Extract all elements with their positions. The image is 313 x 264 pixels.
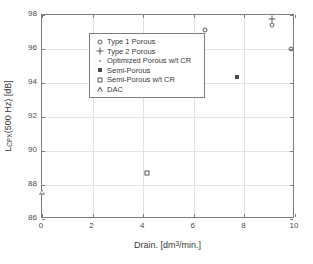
y-tick-label: 90 <box>17 146 37 154</box>
x-tick-label: 0 <box>39 222 43 230</box>
y-tick <box>42 83 45 84</box>
marker-triangle-icon <box>97 87 103 92</box>
x-tick-label: 8 <box>241 222 245 230</box>
gridline-vertical <box>244 15 245 217</box>
data-point-plus <box>269 15 276 22</box>
x-tick-label: 4 <box>140 222 144 230</box>
legend-item-4[interactable]: Semi-Porous w/t CR <box>93 75 200 85</box>
y-tick-right <box>290 49 293 50</box>
x-tick-top <box>244 15 245 18</box>
marker-plus-icon <box>97 48 104 55</box>
data-point-square-open <box>144 171 149 176</box>
legend-item-3[interactable]: Semi-Porous <box>93 66 200 76</box>
marker-square-open-icon <box>98 77 103 82</box>
gridline-horizontal <box>42 185 293 186</box>
legend-item-2[interactable]: Optimized Porous w/t CR <box>93 56 200 66</box>
legend-marker-cell <box>93 47 107 57</box>
data-point-square-filled <box>235 75 239 79</box>
x-tick-label: 10 <box>290 222 299 230</box>
y-tick <box>42 185 45 186</box>
legend-item-label: Type 2 Porous <box>107 47 155 57</box>
x-tick <box>143 214 144 217</box>
plot-area: Type 1 PorousType 2 PorousOptimized Poro… <box>41 14 294 218</box>
legend-marker-cell <box>93 37 107 47</box>
x-tick <box>42 214 43 217</box>
gridline-horizontal <box>42 151 293 152</box>
x-tick-top <box>143 15 144 18</box>
y-tick-label: 98 <box>17 10 37 18</box>
gridline-horizontal <box>42 117 293 118</box>
y-tick-label: 96 <box>17 44 37 52</box>
y-tick-label: 92 <box>17 112 37 120</box>
x-axis-label: Drain. [dm3/min.] <box>41 240 294 250</box>
y-tick-right <box>290 83 293 84</box>
x-tick-top <box>295 15 296 18</box>
legend-marker-cell <box>93 85 107 95</box>
y-axis-label: LCPX(500 Hz) [dB] <box>3 80 13 151</box>
x-tick <box>194 214 195 217</box>
y-tick <box>42 151 45 152</box>
legend-item-label: Type 1 Porous <box>107 37 155 47</box>
legend-item-label: DAC <box>107 85 123 95</box>
x-tick <box>244 214 245 217</box>
legend-marker-cell <box>93 66 107 76</box>
legend-marker-cell <box>93 75 107 85</box>
data-point-circle <box>270 23 275 28</box>
legend-item-label: Optimized Porous w/t CR <box>107 56 191 66</box>
x-tick-top <box>194 15 195 18</box>
legend-marker-cell <box>93 56 107 66</box>
legend-item-label: Semi-Porous <box>107 66 150 76</box>
y-tick-right <box>290 219 293 220</box>
y-tick-label: 94 <box>17 78 37 86</box>
legend-item-5[interactable]: DAC <box>93 85 200 95</box>
x-tick-top <box>93 15 94 18</box>
y-tick <box>42 49 45 50</box>
y-tick-right <box>290 185 293 186</box>
legend-item-1[interactable]: Type 2 Porous <box>93 47 200 57</box>
y-tick-label: 88 <box>17 180 37 188</box>
x-tick-label: 6 <box>191 222 195 230</box>
y-tick-right <box>290 117 293 118</box>
x-tick <box>93 214 94 217</box>
legend-item-0[interactable]: Type 1 Porous <box>93 37 200 47</box>
y-tick-right <box>290 151 293 152</box>
legend-item-label: Semi-Porous w/t CR <box>107 75 175 85</box>
y-tick <box>42 219 45 220</box>
x-tick-label: 2 <box>89 222 93 230</box>
y-axis-label-wrap: LCPX(500 Hz) [dB] <box>0 14 16 218</box>
data-point-triangle <box>39 189 45 194</box>
y-tick <box>42 117 45 118</box>
chart-figure: Type 1 PorousType 2 PorousOptimized Poro… <box>0 0 313 264</box>
y-tick-right <box>290 15 293 16</box>
x-tick <box>295 214 296 217</box>
marker-circle-icon <box>98 39 103 44</box>
marker-square-filled-icon <box>98 68 102 72</box>
chart-legend[interactable]: Type 1 PorousType 2 PorousOptimized Poro… <box>89 33 205 98</box>
y-tick <box>42 15 45 16</box>
marker-dot-icon <box>99 60 101 62</box>
y-tick-label: 86 <box>17 214 37 222</box>
